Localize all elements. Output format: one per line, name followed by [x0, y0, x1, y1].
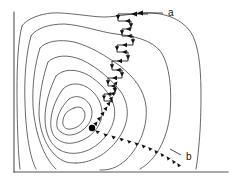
contour-line-5	[56, 70, 115, 153]
arrow-marker	[97, 117, 101, 122]
arrow-marker	[131, 39, 135, 43]
contour-line-4	[48, 56, 127, 163]
contour-line-1b	[17, 26, 22, 169]
arrow-marker	[102, 96, 106, 100]
arrow-marker	[116, 68, 121, 72]
start-point-dot	[89, 125, 95, 131]
arrow-marker	[161, 153, 165, 157]
contour-line-1	[22, 13, 201, 169]
arrow-marker	[116, 15, 121, 20]
arrow-marker	[126, 55, 130, 59]
arrow-marker	[111, 92, 115, 97]
arrow-marker	[117, 59, 122, 64]
arrow-marker	[106, 102, 110, 107]
arrow-marker	[127, 140, 132, 144]
arrow-marker	[167, 156, 171, 160]
arrow-marker	[120, 72, 124, 76]
contour-plot-figure: a b	[0, 0, 235, 182]
trajectory-a-path	[104, 14, 148, 101]
leader-line-b	[170, 149, 181, 155]
contour-line-3b	[33, 48, 56, 169]
arrow-marker	[177, 163, 181, 167]
contour-line-5b	[45, 76, 60, 150]
contour-line-2	[31, 24, 171, 169]
contour-line-2b	[25, 36, 36, 169]
arrow-marker	[103, 107, 107, 112]
trajectory-a-group	[102, 12, 148, 103]
arrow-marker	[95, 130, 100, 134]
arrow-marker	[106, 80, 110, 84]
label-b: b	[186, 151, 192, 162]
arrow-marker	[131, 12, 137, 17]
arrow-marker	[122, 43, 127, 48]
contour-line-3	[40, 41, 146, 170]
arrow-marker	[120, 30, 124, 34]
arrow-marker	[119, 138, 124, 142]
contour-line-7b	[57, 99, 69, 132]
contour-line-6	[56, 84, 102, 143]
arrow-marker	[142, 145, 146, 149]
arrow-marker	[148, 147, 152, 151]
arrow-marker	[129, 23, 133, 27]
arrow-marker	[172, 160, 176, 164]
contour-lines-group	[17, 13, 201, 170]
arrow-marker	[137, 11, 143, 16]
arrow-marker	[111, 136, 116, 140]
arrow-marker	[127, 34, 132, 38]
plot-canvas: a b	[0, 0, 235, 182]
arrow-marker	[122, 50, 127, 54]
contour-line-4b	[39, 62, 76, 163]
label-a: a	[168, 7, 174, 18]
contour-line-8	[63, 107, 85, 129]
arrow-marker	[126, 27, 131, 31]
trajectory-b-lower-markers	[95, 130, 181, 167]
arrow-marker	[112, 76, 117, 81]
contour-line-6b	[51, 89, 63, 138]
arrow-marker	[110, 64, 114, 68]
label-leaders-group	[137, 11, 181, 155]
arrow-marker	[115, 46, 119, 50]
arrow-marker	[111, 84, 115, 88]
arrow-marker	[125, 19, 130, 24]
